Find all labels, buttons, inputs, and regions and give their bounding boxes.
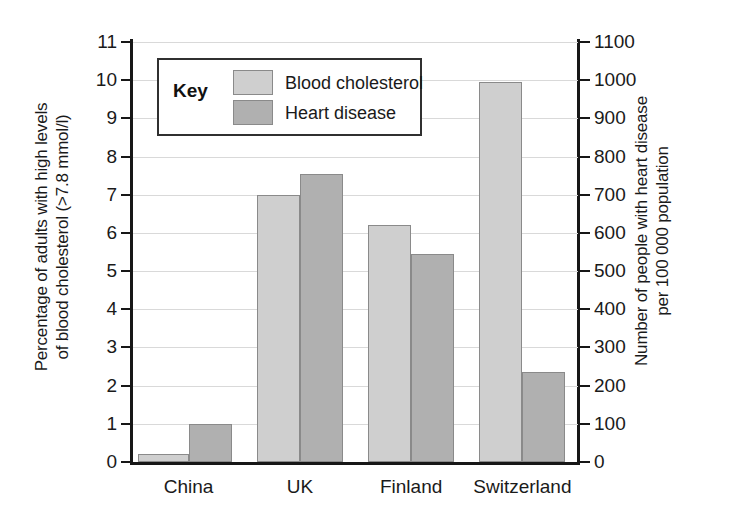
right-axis-tick-label: 800 (594, 147, 626, 166)
right-axis-tick-label: 300 (594, 337, 626, 356)
left-axis-tick-label: 11 (0, 32, 117, 51)
left-axis-tick-label: 2 (0, 376, 117, 395)
right-axis-tick (580, 385, 590, 387)
left-axis-tick-label: 1 (0, 414, 117, 433)
right-axis-tick (580, 308, 590, 310)
left-axis-tick (121, 156, 131, 158)
bar-heart-disease-china (189, 424, 232, 462)
right-axis-tick-label: 0 (594, 452, 605, 471)
right-axis-tick (580, 461, 590, 463)
left-axis-tick (121, 461, 131, 463)
x-axis-label-switzerland: Switzerland (432, 476, 612, 498)
left-axis-tick-label: 9 (0, 108, 117, 127)
gridline (133, 42, 578, 43)
left-axis-tick-label: 10 (0, 70, 117, 89)
legend-swatch-heart-disease (233, 100, 273, 125)
left-axis-tick (121, 117, 131, 119)
left-axis-tick (121, 41, 131, 43)
x-axis-line (130, 462, 580, 465)
left-axis-tick (121, 79, 131, 81)
legend-label-blood-cholesterol: Blood cholesterol (285, 74, 423, 92)
right-axis-tick (580, 156, 590, 158)
bar-heart-disease-switzerland (522, 372, 565, 462)
right-axis-tick-label: 1000 (594, 70, 636, 89)
left-axis-tick (121, 232, 131, 234)
right-axis-tick (580, 232, 590, 234)
right-axis-tick (580, 346, 590, 348)
left-axis-tick-label: 3 (0, 337, 117, 356)
bar-heart-disease-uk (300, 174, 343, 462)
bar-blood-cholesterol-uk (257, 195, 300, 462)
right-axis-tick-label: 400 (594, 299, 626, 318)
bar-chart: Percentage of adults with high levels of… (0, 0, 746, 529)
right-axis-tick (580, 423, 590, 425)
right-axis-tick (580, 194, 590, 196)
right-axis-title: Number of people with heart disease per … (631, 66, 673, 396)
right-axis-tick (580, 79, 590, 81)
left-axis-tick-label: 0 (0, 452, 117, 471)
left-axis-tick-label: 7 (0, 185, 117, 204)
right-axis-tick (580, 117, 590, 119)
right-axis-tick-label: 600 (594, 223, 626, 242)
left-axis-tick (121, 346, 131, 348)
legend-title: Key (173, 80, 208, 102)
right-axis-tick-label: 200 (594, 376, 626, 395)
left-axis-tick (121, 423, 131, 425)
right-axis-tick-label: 700 (594, 185, 626, 204)
right-axis-tick (580, 41, 590, 43)
left-axis-tick-label: 4 (0, 299, 117, 318)
left-axis-tick (121, 308, 131, 310)
legend-label-heart-disease: Heart disease (285, 104, 396, 122)
legend-entry-heart-disease: Heart disease (233, 98, 396, 127)
right-axis-tick-label: 1100 (594, 32, 635, 51)
left-axis-tick-label: 6 (0, 223, 117, 242)
right-axis-title-line-2: per 100 000 population (652, 66, 673, 396)
left-axis-tick (121, 270, 131, 272)
bar-blood-cholesterol-china (138, 454, 189, 462)
bar-heart-disease-finland (411, 254, 454, 462)
right-axis-tick (580, 270, 590, 272)
left-axis-tick (121, 194, 131, 196)
right-axis-tick-label: 500 (594, 261, 626, 280)
left-axis-tick (121, 385, 131, 387)
legend-swatch-blood-cholesterol (233, 70, 273, 95)
bar-blood-cholesterol-switzerland (479, 82, 522, 462)
left-axis-tick-label: 8 (0, 147, 117, 166)
right-axis-title-line-1: Number of people with heart disease (631, 66, 652, 396)
legend-entry-blood-cholesterol: Blood cholesterol (233, 68, 423, 97)
legend-box: Key Blood cholesterol Heart disease (157, 58, 422, 136)
right-axis-tick-label: 100 (594, 414, 626, 433)
left-axis-tick-label: 5 (0, 261, 117, 280)
bar-blood-cholesterol-finland (368, 225, 411, 462)
right-axis-tick-label: 900 (594, 108, 626, 127)
